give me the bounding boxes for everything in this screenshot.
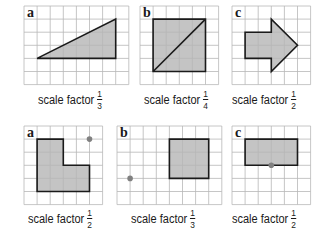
grid-panel-top-a: a — [24, 5, 129, 85]
fraction-denominator: 4 — [203, 101, 208, 110]
grid-panel-bottom-a: a — [24, 125, 103, 205]
center-of-dilation-dot — [87, 136, 93, 142]
scale-fraction: 14 — [203, 89, 208, 110]
grid-panel-top-b: b — [140, 5, 219, 85]
panel-letter: c — [235, 5, 241, 20]
panel-letter: c — [235, 125, 241, 140]
caption-text: scale factor — [232, 212, 288, 226]
scale-fraction: 12 — [291, 89, 296, 110]
scale-fraction: 12 — [87, 208, 92, 228]
scale-factor-caption: scale factor14 — [144, 89, 208, 110]
caption-text: scale factor — [38, 93, 94, 107]
fraction-denominator: 2 — [291, 101, 296, 110]
fraction-denominator: 2 — [291, 220, 296, 228]
panel-letter: a — [27, 125, 34, 140]
caption-text: scale factor — [144, 93, 200, 107]
scale-factor-caption: scale factor13 — [38, 89, 102, 110]
caption-text: scale factor — [232, 93, 288, 107]
grid-panel-bottom-b: b — [117, 125, 222, 205]
scale-fraction: 12 — [291, 208, 296, 228]
center-of-dilation-dot — [127, 176, 133, 182]
caption-text: scale factor — [28, 212, 84, 226]
scale-factor-caption: scale factor12 — [232, 89, 296, 110]
scale-factor-diagram: abcabc — [0, 0, 317, 228]
panel-letter: b — [120, 125, 128, 140]
scale-fraction: 13 — [97, 89, 102, 110]
center-of-dilation-dot — [269, 163, 275, 169]
fraction-numerator: 1 — [190, 208, 195, 217]
scale-factor-caption: scale factor13 — [131, 208, 195, 228]
fraction-numerator: 1 — [291, 208, 296, 217]
fraction-numerator: 1 — [203, 89, 208, 98]
fraction-denominator: 3 — [190, 220, 195, 228]
scale-factor-caption: scale factor12 — [28, 208, 92, 228]
grid-panel-bottom-c: c — [232, 125, 311, 205]
caption-text: scale factor — [131, 212, 187, 226]
shape-fill — [169, 139, 208, 178]
fraction-numerator: 1 — [87, 208, 92, 217]
scale-factor-caption: scale factor12 — [232, 208, 296, 228]
panel-letter: a — [27, 5, 34, 20]
grid-panel-top-c: c — [232, 5, 311, 85]
fraction-numerator: 1 — [97, 89, 102, 98]
fraction-numerator: 1 — [291, 89, 296, 98]
fraction-denominator: 3 — [97, 101, 102, 110]
scale-fraction: 13 — [190, 208, 195, 228]
fraction-denominator: 2 — [87, 220, 92, 228]
panel-letter: b — [143, 5, 151, 20]
